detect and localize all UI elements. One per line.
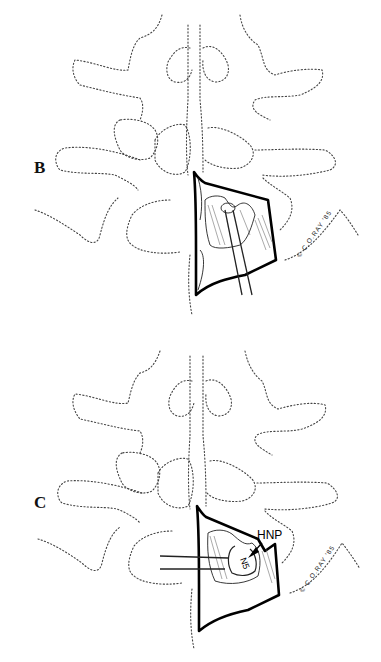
spine-illustration-b: © C.O.RAY '85 [0, 0, 381, 331]
panel-c: C N5 HNP © C.O.RAY '85 [0, 331, 381, 662]
hnp-label: HNP [257, 528, 282, 542]
panel-b: B © C.O.RAY '85 [0, 0, 381, 331]
spine-illustration-c: N5 HNP © C.O.RAY '85 [0, 331, 381, 662]
copyright-c: © C.O.RAY '85 [298, 544, 336, 594]
copyright-b: © C.O.RAY '85 [295, 209, 333, 259]
